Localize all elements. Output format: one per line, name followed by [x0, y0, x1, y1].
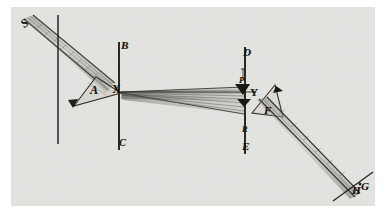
label-screen-C: C: [119, 138, 126, 148]
label-prism-F: F: [264, 105, 271, 116]
label-aperture-Y: Y: [250, 87, 258, 98]
label-screen-D: D: [243, 47, 251, 58]
label-prism-A: A: [90, 84, 98, 96]
label-screen-B: B: [121, 40, 128, 51]
label-marker-P: P: [239, 77, 244, 85]
label-aperture-X: X: [112, 83, 121, 95]
label-marker-R: R: [242, 126, 247, 134]
figure-root: S B C A X D P Y R E F H G: [0, 0, 387, 222]
label-target-H: H: [352, 185, 361, 196]
label-target-G: G: [361, 181, 369, 192]
diagram-canvas: [11, 7, 375, 206]
label-screen-E: E: [242, 141, 249, 152]
engraving-plate: S B C A X D P Y R E F H G: [11, 7, 375, 206]
